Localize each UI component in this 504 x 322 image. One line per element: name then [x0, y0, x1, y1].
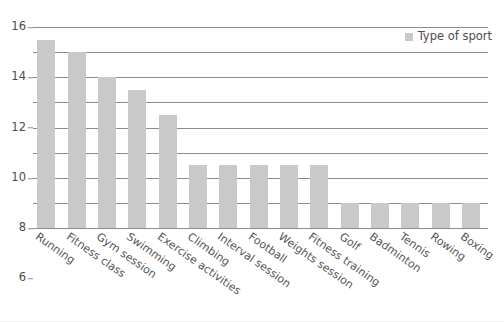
y-axis-tick-label: 6 [19, 273, 33, 285]
bar [371, 203, 389, 228]
y-axis-tick-label: 14 [11, 72, 33, 84]
bar [98, 77, 116, 228]
x-axis-labels: RunningFitness classGym sessionSwimmingE… [33, 231, 488, 319]
plot-area: 0246810121416 [33, 27, 488, 228]
bar [189, 165, 207, 228]
bar [462, 203, 480, 228]
bar [280, 165, 298, 228]
y-axis-tick-label: 8 [19, 222, 33, 234]
bar [250, 165, 268, 228]
bar-chart-figure: 0246810121416 RunningFitness classGym se… [0, 0, 504, 322]
bar [37, 40, 55, 228]
bar [159, 115, 177, 228]
bar [128, 90, 146, 228]
bar [310, 165, 328, 228]
bar [68, 52, 86, 228]
legend-swatch-icon [405, 33, 413, 41]
bar [219, 165, 237, 228]
y-axis-tick-label: 16 [11, 21, 33, 33]
bar-series-type-of-sport [33, 27, 488, 228]
bar [432, 203, 450, 228]
bar [341, 203, 359, 228]
y-axis-tick-label: 10 [11, 172, 33, 184]
bar [401, 203, 419, 228]
legend-label: Type of sport [418, 31, 492, 43]
chart-legend: Type of sport [405, 31, 492, 43]
y-axis-tick-label: 12 [11, 122, 33, 134]
gridline-0: 0 [33, 228, 488, 229]
